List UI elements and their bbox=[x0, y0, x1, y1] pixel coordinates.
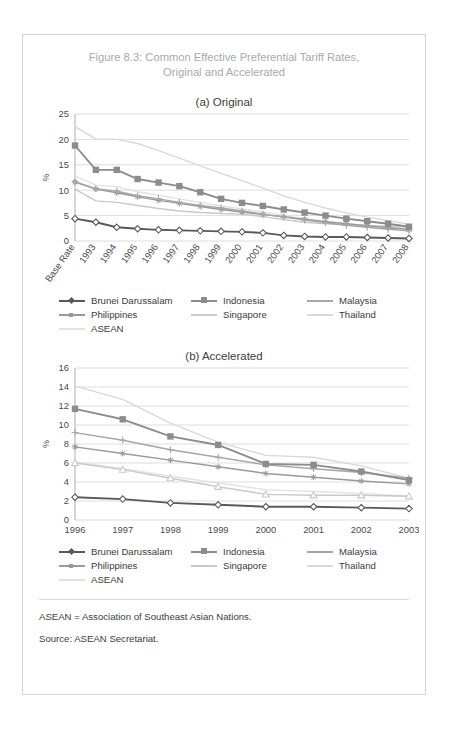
svg-text:2007: 2007 bbox=[369, 242, 390, 265]
svg-text:1999: 1999 bbox=[208, 524, 229, 535]
svg-text:2001: 2001 bbox=[303, 524, 324, 535]
legend-item-thailand[interactable]: Thailand bbox=[307, 309, 376, 320]
svg-text:%: % bbox=[41, 440, 51, 448]
legend-swatch-thailand bbox=[307, 310, 333, 320]
legend-item-brunei-b[interactable]: Brunei Darussalam bbox=[59, 546, 191, 557]
svg-text:14: 14 bbox=[59, 381, 69, 392]
legend-label-indonesia: Indonesia bbox=[223, 295, 265, 306]
note-abbreviation: ASEAN = Association of Southeast Asian N… bbox=[39, 611, 425, 622]
legend-swatch-indonesia-b bbox=[191, 547, 217, 557]
svg-text:20: 20 bbox=[59, 134, 69, 145]
legend-accelerated: Brunei Darussalam Indonesia Malaysia Phi… bbox=[59, 546, 389, 585]
svg-text:1994: 1994 bbox=[97, 242, 118, 265]
legend-label-malaysia: Malaysia bbox=[339, 295, 377, 306]
chart-original: 0510152025%Base Rate19931994199519961997… bbox=[29, 108, 419, 293]
svg-text:2002: 2002 bbox=[264, 242, 285, 265]
svg-text:2: 2 bbox=[64, 495, 69, 506]
legend-item-asean[interactable]: ASEAN bbox=[59, 323, 191, 334]
legend-item-malaysia[interactable]: Malaysia bbox=[307, 295, 377, 306]
legend-item-brunei[interactable]: Brunei Darussalam bbox=[59, 295, 191, 306]
svg-text:8: 8 bbox=[64, 438, 69, 449]
svg-text:1996: 1996 bbox=[139, 242, 160, 265]
figure-title-line1: Figure 8.3: Common Effective Preferentia… bbox=[23, 50, 425, 65]
legend-swatch-philippines bbox=[59, 310, 85, 320]
svg-text:10: 10 bbox=[59, 185, 69, 196]
svg-text:15: 15 bbox=[59, 159, 69, 170]
svg-text:6: 6 bbox=[64, 457, 69, 468]
legend-label-malaysia-b: Malaysia bbox=[339, 546, 377, 557]
legend-swatch-brunei bbox=[59, 296, 85, 306]
svg-text:2000: 2000 bbox=[223, 242, 244, 265]
legend-label-asean: ASEAN bbox=[91, 323, 124, 334]
legend-item-indonesia[interactable]: Indonesia bbox=[191, 295, 307, 306]
svg-text:2000: 2000 bbox=[255, 524, 276, 535]
legend-row-2: Philippines Singapore Thailand bbox=[59, 309, 389, 320]
svg-text:10: 10 bbox=[59, 419, 69, 430]
legend-swatch-brunei-b bbox=[59, 547, 85, 557]
legend-swatch-malaysia-b bbox=[307, 547, 333, 557]
legend-label-indonesia-b: Indonesia bbox=[223, 546, 265, 557]
note-source: Source: ASEAN Secretariat. bbox=[39, 633, 425, 644]
svg-text:1993: 1993 bbox=[77, 242, 98, 265]
svg-text:1997: 1997 bbox=[160, 242, 181, 265]
panel-a-title: (a) Original bbox=[23, 96, 425, 108]
legend-row-1-b: Brunei Darussalam Indonesia Malaysia bbox=[59, 546, 389, 557]
svg-text:2005: 2005 bbox=[327, 242, 348, 265]
legend-label-singapore: Singapore bbox=[223, 309, 267, 320]
svg-text:1998: 1998 bbox=[160, 524, 181, 535]
legend-row-3: ASEAN bbox=[59, 323, 389, 334]
panel-accelerated: (b) Accelerated 0246810121416%1996199719… bbox=[23, 350, 425, 585]
legend-label-thailand: Thailand bbox=[339, 309, 376, 320]
panel-original: (a) Original 0510152025%Base Rate1993199… bbox=[23, 96, 425, 334]
svg-text:12: 12 bbox=[59, 400, 69, 411]
svg-text:1997: 1997 bbox=[112, 524, 133, 535]
legend-row-3-b: ASEAN bbox=[59, 574, 389, 585]
legend-swatch-singapore bbox=[191, 310, 217, 320]
svg-text:2004: 2004 bbox=[306, 242, 327, 265]
figure-title: Figure 8.3: Common Effective Preferentia… bbox=[23, 35, 425, 80]
svg-text:25: 25 bbox=[59, 108, 69, 119]
legend-item-indonesia-b[interactable]: Indonesia bbox=[191, 546, 307, 557]
legend-swatch-asean bbox=[59, 324, 85, 334]
notes-divider bbox=[39, 599, 409, 600]
svg-text:2002: 2002 bbox=[351, 524, 372, 535]
legend-label-brunei: Brunei Darussalam bbox=[91, 295, 173, 306]
panel-b-title: (b) Accelerated bbox=[23, 350, 425, 362]
legend-swatch-asean-b bbox=[59, 575, 85, 585]
legend-swatch-philippines-b bbox=[59, 561, 85, 571]
legend-original: Brunei Darussalam Indonesia Malaysia Phi… bbox=[59, 295, 389, 334]
figure-frame: Figure 8.3: Common Effective Preferentia… bbox=[22, 34, 426, 695]
svg-text:4: 4 bbox=[64, 476, 69, 487]
svg-text:2003: 2003 bbox=[399, 524, 419, 535]
legend-item-malaysia-b[interactable]: Malaysia bbox=[307, 546, 377, 557]
legend-item-singapore[interactable]: Singapore bbox=[191, 309, 307, 320]
svg-text:2001: 2001 bbox=[244, 242, 265, 265]
legend-item-asean-b[interactable]: ASEAN bbox=[59, 574, 191, 585]
svg-text:1998: 1998 bbox=[181, 242, 202, 265]
svg-text:2008: 2008 bbox=[390, 242, 411, 265]
legend-swatch-malaysia bbox=[307, 296, 333, 306]
svg-text:%: % bbox=[41, 173, 51, 181]
svg-text:2003: 2003 bbox=[285, 242, 306, 265]
legend-item-philippines[interactable]: Philippines bbox=[59, 309, 191, 320]
legend-swatch-thailand-b bbox=[307, 561, 333, 571]
legend-item-philippines-b[interactable]: Philippines bbox=[59, 560, 191, 571]
chart-accelerated: 0246810121416%19961997199819992000200120… bbox=[29, 362, 419, 544]
svg-text:Base Rate: Base Rate bbox=[43, 242, 77, 284]
legend-label-brunei-b: Brunei Darussalam bbox=[91, 546, 173, 557]
legend-item-thailand-b[interactable]: Thailand bbox=[307, 560, 376, 571]
svg-text:1999: 1999 bbox=[202, 242, 223, 265]
legend-item-singapore-b[interactable]: Singapore bbox=[191, 560, 307, 571]
legend-swatch-indonesia bbox=[191, 296, 217, 306]
legend-label-philippines: Philippines bbox=[91, 309, 137, 320]
figure-title-line2: Original and Accelerated bbox=[23, 65, 425, 80]
svg-text:5: 5 bbox=[64, 210, 69, 221]
legend-label-thailand-b: Thailand bbox=[339, 560, 376, 571]
legend-label-philippines-b: Philippines bbox=[91, 560, 137, 571]
svg-text:1996: 1996 bbox=[65, 524, 86, 535]
legend-row-2-b: Philippines Singapore Thailand bbox=[59, 560, 389, 571]
svg-text:1995: 1995 bbox=[118, 242, 139, 265]
legend-swatch-singapore-b bbox=[191, 561, 217, 571]
legend-row-1: Brunei Darussalam Indonesia Malaysia bbox=[59, 295, 389, 306]
figure-notes: ASEAN = Association of Southeast Asian N… bbox=[39, 611, 425, 644]
